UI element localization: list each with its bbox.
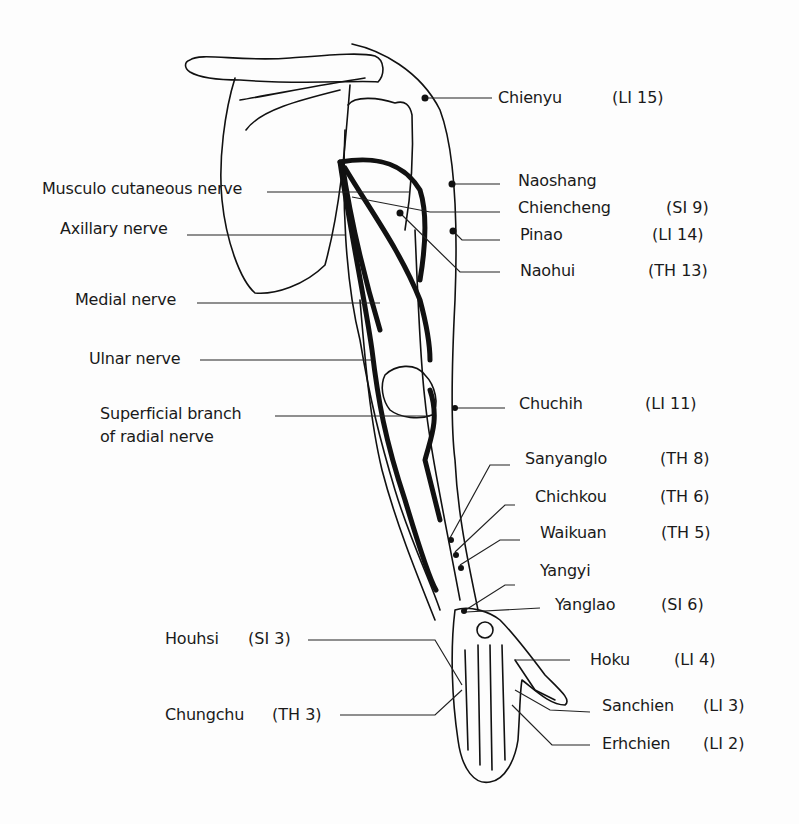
point-label-yanglao: Yanglao — [555, 596, 615, 614]
point-code-yanglao: (SI 6) — [661, 596, 704, 614]
point-label-chienyu: Chienyu — [498, 89, 562, 107]
point-code-chichkou: (TH 6) — [660, 488, 710, 506]
point-label-pinao: Pinao — [520, 226, 562, 244]
point-dot — [422, 95, 429, 102]
nerve-label-musculocutaneous: Musculo cutaneous nerve — [42, 180, 242, 198]
point-code-houhsi: (SI 3) — [248, 630, 291, 648]
nerve-label-ulnar: Ulnar nerve — [89, 350, 180, 368]
point-label-chungchu: Chungchu — [165, 706, 244, 724]
nerve-label-radial-line1: Superficial branch — [100, 405, 242, 423]
point-code-hoku: (LI 4) — [674, 651, 715, 669]
point-label-sanyanglo: Sanyanglo — [525, 450, 607, 468]
point-code-sanyanglo: (TH 8) — [660, 450, 710, 468]
point-label-sanchien: Sanchien — [602, 697, 674, 715]
point-code-chuchih: (LI 11) — [645, 395, 697, 413]
point-code-sanchien: (LI 3) — [703, 697, 744, 715]
point-code-erhchien: (LI 2) — [703, 735, 744, 753]
point-label-erhchien: Erhchien — [602, 735, 670, 753]
point-code-pinao: (LI 14) — [652, 226, 704, 244]
elbow — [382, 366, 436, 417]
point-label-yangyi: Yangyi — [540, 562, 590, 580]
nerve-label-axillary: Axillary nerve — [60, 220, 168, 238]
point-code-chiencheng: (SI 9) — [666, 199, 709, 217]
point-label-chichkou: Chichkou — [535, 488, 607, 506]
point-label-waikuan: Waikuan — [540, 524, 607, 542]
point-label-hoku: Hoku — [590, 651, 630, 669]
point-code-waikuan: (TH 5) — [661, 524, 711, 542]
hand — [452, 608, 567, 782]
point-code-naohui: (TH 13) — [648, 262, 708, 280]
point-label-naoshang: Naoshang — [518, 172, 597, 190]
point-label-naohui: Naohui — [520, 262, 575, 280]
clavicle — [186, 54, 383, 82]
arm-acupuncture-diagram: Chienyu (LI 15) Naoshang Chiencheng (SI … — [0, 0, 799, 824]
nerve-label-medial: Medial nerve — [75, 291, 176, 309]
nerve-label-radial-line2: of radial nerve — [100, 428, 214, 446]
point-code-chungchu: (TH 3) — [272, 706, 322, 724]
point-code-chienyu: (LI 15) — [612, 89, 664, 107]
point-label-houhsi: Houhsi — [165, 630, 219, 648]
point-label-chuchih: Chuchih — [519, 395, 583, 413]
point-label-chiencheng: Chiencheng — [518, 199, 611, 217]
humerus — [348, 98, 413, 230]
